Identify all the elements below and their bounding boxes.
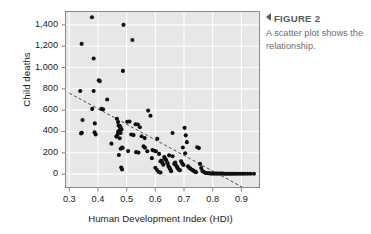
data-point (157, 152, 161, 156)
data-point (143, 136, 147, 140)
data-point (120, 167, 124, 171)
data-point (79, 131, 83, 135)
data-point (169, 169, 173, 173)
x-tick-label: 0.8 (198, 194, 228, 204)
data-point (121, 69, 125, 73)
data-point (184, 133, 188, 137)
data-point (126, 149, 130, 153)
data-point (145, 149, 149, 153)
x-tick-label: 0.4 (83, 194, 113, 204)
data-point (117, 153, 121, 157)
data-point (181, 145, 185, 149)
data-point (252, 172, 256, 176)
figure-2: Child deaths Human Development Index (HD… (0, 0, 371, 234)
x-axis-title: Human Development Index (HDI) (48, 213, 273, 224)
data-point (121, 23, 125, 27)
data-point (101, 107, 105, 111)
data-point (80, 118, 84, 122)
data-point (197, 146, 201, 150)
data-point (146, 109, 150, 113)
data-point (109, 142, 113, 146)
y-tick-label: 600 (17, 104, 58, 114)
data-point (90, 15, 94, 19)
x-tick-label: 0.9 (226, 194, 256, 204)
data-point (161, 163, 165, 167)
data-point (98, 79, 102, 83)
y-tick-label: 200 (17, 147, 58, 157)
scatter-chart: Child deaths Human Development Index (HD… (0, 0, 266, 234)
data-point (131, 133, 135, 137)
y-tick-label: 400 (17, 125, 58, 135)
y-tick-label: 1,000 (17, 62, 58, 72)
figure-caption: FIGURE 2 A scatter plot shows the relati… (266, 13, 368, 54)
data-point (170, 154, 174, 158)
y-tick-label: 800 (17, 83, 58, 93)
data-point (158, 170, 162, 174)
data-point (92, 89, 96, 93)
data-point (78, 89, 82, 93)
data-point (80, 42, 84, 46)
data-point (181, 163, 185, 167)
data-point (148, 114, 152, 118)
caption-body: A scatter plot shows the relationship. (266, 27, 368, 54)
x-tick-label: 0.3 (54, 194, 84, 204)
data-point (130, 38, 134, 42)
data-point (178, 168, 182, 172)
data-point (185, 140, 189, 144)
data-point (118, 136, 122, 140)
x-tick-label: 0.6 (140, 194, 170, 204)
x-tick-label: 0.7 (169, 194, 199, 204)
data-point (170, 131, 174, 135)
data-point (155, 168, 159, 172)
data-point (143, 146, 147, 150)
data-point (119, 147, 123, 151)
data-point (136, 151, 140, 155)
y-tick-label: 1,200 (17, 40, 58, 50)
data-point (105, 97, 109, 101)
data-point (116, 120, 120, 124)
data-point (155, 137, 159, 141)
caption-heading: FIGURE 2 (266, 13, 368, 25)
data-point (194, 170, 198, 174)
y-tick-label: 1,400 (17, 19, 58, 29)
y-tick-label: 0 (17, 168, 58, 178)
data-point (198, 162, 202, 166)
data-point (183, 126, 187, 130)
caption-heading-text: FIGURE 2 (274, 13, 320, 24)
data-point (150, 156, 154, 160)
x-tick-label: 0.5 (112, 194, 142, 204)
data-point (167, 153, 171, 157)
data-point (92, 56, 96, 60)
triangle-left-icon (266, 13, 271, 21)
data-point (93, 121, 97, 125)
data-point (127, 119, 131, 123)
data-point (183, 151, 187, 155)
data-point (154, 149, 158, 153)
data-point (90, 107, 94, 111)
data-point (138, 125, 142, 129)
data-point (94, 132, 98, 136)
